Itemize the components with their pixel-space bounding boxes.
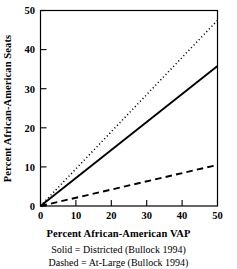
x-tick-label-10: 10 <box>71 210 82 221</box>
plot-area: 0 10 20 30 40 50 0 10 20 30 40 50 <box>0 0 237 226</box>
y-tick-label-10: 10 <box>25 162 36 173</box>
plot-frame <box>41 11 218 207</box>
x-axis-title: Percent African-American VAP <box>0 228 237 239</box>
x-tick-label-50: 50 <box>212 210 223 221</box>
x-tick-label-20: 20 <box>106 210 117 221</box>
x-tick-label-40: 40 <box>177 210 188 221</box>
x-tick-label-0: 0 <box>38 210 43 221</box>
legend-line-dashed: Dashed = At-Large (Bullock 1994) <box>0 257 237 269</box>
y-tick-label-0: 0 <box>30 201 35 212</box>
x-axis-tick-labels: 0 10 20 30 40 50 <box>38 210 223 221</box>
y-axis-tick-labels: 0 10 20 30 40 50 <box>25 5 36 212</box>
y-tick-label-50: 50 <box>25 5 36 16</box>
y-tick-label-20: 20 <box>25 123 36 134</box>
y-tick-label-30: 30 <box>25 84 36 95</box>
x-tick-label-30: 30 <box>141 210 152 221</box>
legend-line-solid: Solid = Districted (Bullock 1994) <box>0 244 237 257</box>
y-tick-label-40: 40 <box>25 44 36 55</box>
chart-legend-caption: Solid = Districted (Bullock 1994) Dashed… <box>0 244 237 269</box>
